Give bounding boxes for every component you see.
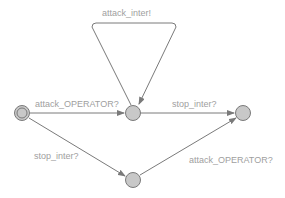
edge-label-stop-inter-2: stop_inter? (34, 151, 79, 161)
node-mid[interactable] (126, 106, 141, 121)
edge-mid-self-loop[interactable] (92, 23, 176, 105)
edge-label-attack-operator-1: attack_OPERATOR? (35, 99, 119, 109)
node-init[interactable] (15, 106, 30, 121)
edge-label-attack-operator-2: attack_OPERATOR? (189, 155, 273, 165)
initial-node-inner (17, 108, 27, 118)
edge-init-to-bottom[interactable] (29, 118, 125, 176)
edge-label-attack-inter: attack_inter! (102, 8, 151, 18)
edge-bottom-to-right[interactable] (140, 118, 236, 175)
node-bottom[interactable] (126, 173, 141, 188)
edge-label-stop-inter-1: stop_inter? (172, 99, 217, 109)
automaton-diagram: attack_inter! attack_OPERATOR? stop_inte… (0, 0, 285, 198)
node-right[interactable] (236, 106, 251, 121)
